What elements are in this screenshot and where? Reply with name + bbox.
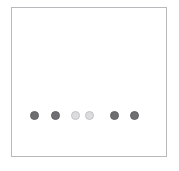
dot-2-filled[interactable]: [51, 111, 60, 120]
step-dot-indicator[interactable]: [12, 8, 166, 156]
dot-3-empty[interactable]: [71, 111, 80, 120]
dot-1-filled[interactable]: [30, 111, 39, 120]
dot-4-empty[interactable]: [85, 111, 94, 120]
dot-5-filled[interactable]: [110, 111, 119, 120]
dot-6-filled[interactable]: [130, 111, 139, 120]
content-panel: [11, 7, 167, 157]
screenshot-root: [0, 0, 179, 171]
